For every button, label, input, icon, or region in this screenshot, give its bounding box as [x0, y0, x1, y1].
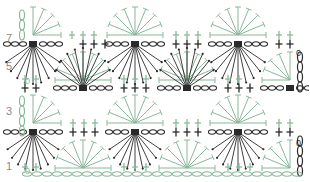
arrow-tip-icon: [229, 81, 231, 83]
dc-stitch-icon: [135, 103, 155, 123]
dc-stitch-icon: [270, 148, 290, 168]
chain-stitch-icon: [40, 42, 47, 46]
arrow-tip-icon: [7, 148, 9, 150]
long-stitch-icon: [135, 44, 143, 82]
chain-stitch-icon: [174, 86, 181, 90]
slip-stitch-block-icon: [234, 129, 242, 135]
chain-stitch-icon: [202, 86, 209, 90]
chain-stitch-icon: [253, 130, 260, 134]
arrow-tip-icon: [258, 157, 260, 159]
row-number-label: 7: [6, 32, 12, 44]
arrow-tip-icon: [229, 167, 231, 169]
chain-stitch-icon: [73, 172, 82, 176]
arrow-tip-icon: [55, 69, 57, 71]
arrow-tip-icon: [16, 77, 18, 79]
chain-stitch-icon: [158, 42, 165, 46]
chain-stitch-icon: [150, 42, 157, 46]
chain-stitch-icon: [209, 42, 216, 46]
arrow-tip-icon: [150, 77, 152, 79]
chain-stitch-icon: [48, 42, 55, 46]
chain-stitch-icon: [53, 172, 62, 176]
chain-stitch-icon: [225, 42, 232, 46]
arrow-tip-icon: [17, 163, 19, 165]
arrow-tip-icon: [213, 69, 215, 71]
dc-stitch-icon: [33, 15, 53, 35]
chain-stitch-icon: [56, 42, 63, 46]
chain-stitch-icon: [4, 130, 11, 134]
dc-stitch-icon: [218, 103, 238, 123]
long-stitch-icon: [83, 50, 91, 88]
chain-stitch-icon: [158, 130, 165, 134]
turning-chain-icon: [298, 72, 303, 82]
arrow-tip-icon: [178, 48, 180, 50]
turning-chain-icon: [20, 106, 25, 116]
chain-stitch-icon: [20, 130, 27, 134]
arrow-tip-icon: [60, 60, 62, 62]
long-stitch-icon: [127, 44, 135, 82]
arrow-tip-icon: [262, 148, 264, 150]
row-end-marker: 0: [296, 138, 301, 148]
arrow-tip-icon: [170, 53, 172, 55]
chain-stitch-icon: [166, 86, 173, 90]
slip-stitch-block-icon: [79, 85, 87, 91]
arrow-tip-icon: [47, 163, 49, 165]
chain-stitch-icon: [233, 172, 242, 176]
dc-stitch-icon: [83, 148, 103, 168]
chain-stitch-icon: [305, 86, 310, 90]
chain-stitch-icon: [253, 42, 260, 46]
arrow-tip-icon: [98, 53, 100, 55]
long-stitch-icon: [25, 132, 33, 169]
dc-stitch-icon: [238, 15, 258, 35]
long-stitch-icon: [127, 132, 135, 169]
arrow-tip-icon: [74, 48, 76, 50]
arrow-tip-icon: [113, 157, 115, 159]
arrow-tip-icon: [40, 81, 42, 83]
chain-stitch-icon: [98, 86, 105, 90]
chain-stitch-icon: [103, 172, 112, 176]
row-number-label: 5: [6, 60, 12, 72]
slip-stitch-block-icon: [29, 129, 37, 135]
chain-stitch-icon: [142, 42, 149, 46]
arrow-tip-icon: [156, 70, 158, 72]
chain-stitch-icon: [62, 86, 69, 90]
arrow-tip-icon: [159, 148, 161, 150]
dc-stitch-icon: [33, 103, 53, 123]
arrow-tip-icon: [264, 61, 266, 63]
crochet-chart: [0, 0, 309, 182]
arrow-tip-icon: [40, 167, 42, 169]
turning-chain-icon: [20, 30, 25, 40]
dc-stitch-icon: [167, 148, 187, 168]
chain-stitch-icon: [209, 130, 216, 134]
dc-stitch-icon: [238, 103, 258, 123]
long-stitch-icon: [230, 44, 238, 82]
slip-stitch-block-icon: [131, 129, 139, 135]
chain-stitch-icon: [203, 172, 212, 176]
chain-stitch-icon: [83, 172, 92, 176]
chain-stitch-icon: [150, 130, 157, 134]
long-stitch-icon: [75, 50, 83, 88]
arrow-tip-icon: [142, 81, 144, 83]
row-end-marker: 0: [296, 48, 301, 58]
dc-stitch-icon: [115, 15, 135, 35]
chain-stitch-icon: [142, 130, 149, 134]
chain-stitch-icon: [12, 42, 19, 46]
chain-stitch-icon: [63, 172, 72, 176]
chain-stitch-icon: [225, 130, 232, 134]
chain-stitch-icon: [163, 172, 172, 176]
arrow-tip-icon: [112, 70, 114, 72]
slip-stitch-block-icon: [131, 41, 139, 47]
chain-stitch-icon: [56, 130, 63, 134]
chain-stitch-icon: [173, 172, 182, 176]
long-stitch-icon: [33, 132, 41, 169]
chain-stitch-icon: [245, 42, 252, 46]
chain-stitch-icon: [12, 130, 19, 134]
arrow-tip-icon: [142, 167, 144, 169]
chain-stitch-icon: [113, 172, 122, 176]
chain-stitch-icon: [153, 172, 162, 176]
chain-stitch-icon: [106, 130, 113, 134]
chain-stitch-icon: [261, 42, 268, 46]
slip-stitch-block-icon: [286, 85, 294, 91]
dc-stitch-icon: [115, 103, 135, 123]
arrow-tip-icon: [107, 61, 109, 63]
slip-stitch-block-icon: [29, 41, 37, 47]
